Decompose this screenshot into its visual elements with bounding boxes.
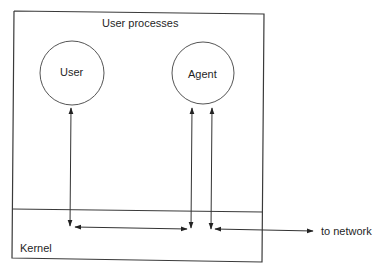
- user-node-label: User: [60, 67, 83, 78]
- kernel-user-agent-arrow: [75, 227, 187, 229]
- process-diagram: User processes User Agent Kernel to netw…: [0, 0, 379, 274]
- network-label: to network: [321, 226, 372, 237]
- user-processes-label: User processes: [102, 18, 178, 29]
- network-arrow: [215, 229, 313, 231]
- agent-node-label: Agent: [188, 69, 217, 80]
- kernel-divider: [12, 209, 263, 212]
- kernel-label: Kernel: [20, 243, 52, 254]
- user-kernel-arrow: [70, 108, 71, 226]
- system-boundary-box: [12, 11, 264, 262]
- agent-kernel-arrow-1: [191, 108, 192, 228]
